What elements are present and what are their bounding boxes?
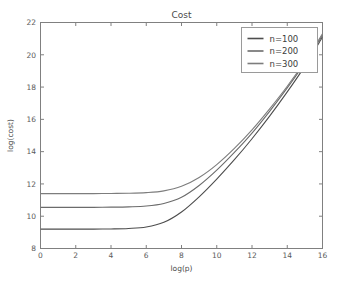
x-axis-label: log(p) bbox=[170, 264, 192, 273]
x-tick-label: 6 bbox=[144, 251, 149, 260]
legend-label-n200: n=200 bbox=[270, 46, 299, 56]
x-tick-label: 14 bbox=[282, 251, 292, 260]
x-tick-label: 0 bbox=[38, 251, 43, 260]
x-tick-label: 16 bbox=[318, 251, 328, 260]
y-tick-label: 20 bbox=[26, 51, 36, 60]
x-tick-label: 2 bbox=[73, 251, 78, 260]
y-tick-label: 10 bbox=[26, 212, 36, 221]
chart-plot: 0246810121416810121416182022Costlog(p)lo… bbox=[0, 0, 343, 290]
y-axis-label: log(cost) bbox=[6, 119, 15, 152]
y-tick-label: 22 bbox=[26, 18, 36, 27]
x-tick-label: 12 bbox=[247, 251, 257, 260]
x-tick-label: 4 bbox=[109, 251, 114, 260]
y-tick-label: 8 bbox=[31, 244, 36, 253]
legend-label-n100: n=100 bbox=[270, 34, 299, 44]
y-tick-label: 14 bbox=[26, 147, 36, 156]
x-tick-label: 8 bbox=[179, 251, 184, 260]
y-tick-label: 18 bbox=[26, 83, 36, 92]
figure-canvas: 0246810121416810121416182022Costlog(p)lo… bbox=[0, 0, 343, 290]
y-tick-label: 12 bbox=[26, 180, 36, 189]
x-tick-label: 10 bbox=[212, 251, 222, 260]
legend-label-n300: n=300 bbox=[270, 59, 299, 69]
chart-title: Cost bbox=[171, 10, 191, 20]
y-tick-label: 16 bbox=[26, 115, 36, 124]
